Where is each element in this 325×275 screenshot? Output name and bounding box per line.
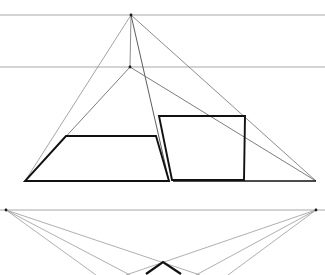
right-vanishing-point — [315, 209, 318, 212]
construction-rays-group — [6, 15, 316, 275]
drawing-canvas — [0, 0, 325, 275]
lower-chevron-mark — [146, 262, 181, 274]
perspective-drawing-svg — [0, 0, 325, 275]
secondary-apex-point — [129, 66, 132, 69]
ray-right-vp-to-lower-right — [196, 210, 316, 275]
ray-apex-to-right-base — [131, 15, 316, 181]
ray-right-vp-to-lower-far — [228, 210, 316, 275]
object-faces-group — [25, 116, 245, 181]
ray-apex-to-inner-edge — [131, 15, 169, 181]
right-parallelogram-face — [159, 116, 245, 180]
ray-left-vp-to-lower-left — [6, 210, 130, 275]
lower-chevron-group — [146, 262, 181, 274]
left-trapezoid-face — [25, 136, 169, 181]
ray-right-vp-to-lower-center — [126, 210, 316, 275]
ray-left-vp-to-lower-center — [6, 210, 200, 275]
ray-left-vp-to-lower-far — [6, 210, 96, 275]
upper-apex-point — [130, 14, 133, 17]
ray-apex-vertical-drop — [130, 15, 131, 67]
left-vanishing-point — [5, 209, 8, 212]
ray-secondary-apex-to-right-base — [130, 67, 316, 181]
ray-apex-to-left-base — [25, 15, 131, 181]
